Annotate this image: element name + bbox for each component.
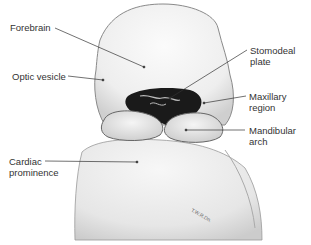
label-line2: region [249,102,286,113]
label-line2: prominence [9,167,59,178]
label-mandibular-arch: Mandibulararch [249,125,296,147]
label-cardiac-prominence: Cardiacprominence [9,156,59,178]
label-forebrain: Forebrain [10,22,51,33]
label-optic-vesicle-text: Optic vesicle [12,71,66,82]
label-forebrain-text: Forebrain [10,22,51,33]
label-line2: plate [250,56,295,67]
label-line1: Cardiac [9,156,59,167]
label-stomodeal-plate: Stomodealplate [250,45,295,67]
label-optic-vesicle: Optic vesicle [12,71,66,82]
cardiac-prominence-shape [75,139,262,240]
mandibular-arch-right [164,113,222,143]
label-line1: Stomodeal [250,45,295,56]
label-line1: Maxillary [249,91,286,102]
label-line2: arch [249,136,296,147]
label-line1: Mandibular [249,125,296,136]
embryo-illustration [0,0,311,245]
label-maxillary-region: Maxillaryregion [249,91,286,113]
